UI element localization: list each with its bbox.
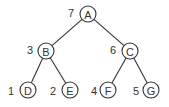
edge-b-e: [50, 58, 66, 83]
node-label: F: [105, 85, 112, 97]
traversal-order-label: 3: [27, 44, 33, 56]
node-label: D: [24, 85, 32, 97]
edge-c-g: [134, 58, 147, 83]
tree-node-b: B3: [27, 43, 54, 59]
traversal-order-label: 2: [50, 85, 56, 97]
traversal-order-label: 7: [68, 7, 74, 19]
node-label: A: [84, 9, 92, 21]
traversal-order-label: 6: [110, 44, 116, 56]
traversal-order-label: 5: [133, 85, 139, 97]
node-label: C: [126, 46, 134, 58]
tree-node-f: F4: [91, 82, 116, 98]
traversal-order-label: 4: [91, 85, 97, 97]
tree-node-c: C6: [110, 43, 138, 59]
edge-b-d: [31, 58, 42, 82]
tree-node-g: G5: [133, 82, 159, 98]
tree-node-e: E2: [50, 82, 78, 98]
tree-node-d: D1: [8, 82, 36, 98]
binary-tree-diagram: A7B3C6D1E2F4G5: [0, 0, 169, 107]
edge-a-c: [94, 19, 124, 45]
edge-c-f: [112, 58, 126, 83]
node-label: E: [66, 85, 73, 97]
node-label: B: [42, 46, 49, 58]
tree-node-a: A7: [68, 6, 96, 22]
tree-nodes: A7B3C6D1E2F4G5: [8, 6, 159, 98]
node-label: G: [147, 85, 156, 97]
traversal-order-label: 1: [8, 85, 14, 97]
edge-a-b: [52, 19, 82, 45]
